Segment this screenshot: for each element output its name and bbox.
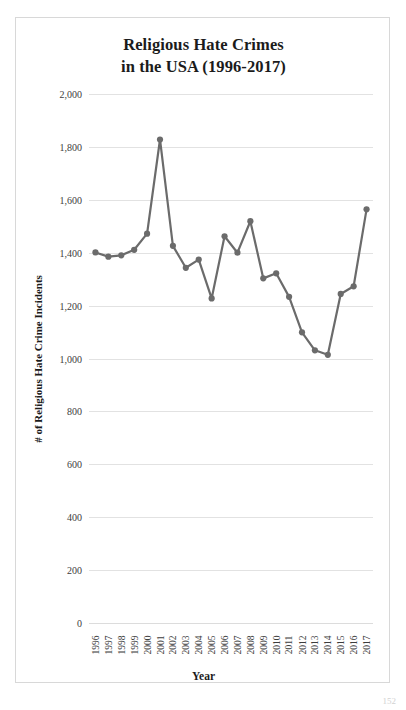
y-tick-label-600: 600 bbox=[67, 459, 82, 470]
x-tick-label-2002: 2002 bbox=[166, 626, 180, 670]
y-tick-label-1800: 1,800 bbox=[60, 141, 83, 152]
x-tick-label-1996: 1996 bbox=[88, 626, 102, 670]
x-tick-text: 2002 bbox=[168, 636, 178, 655]
x-tick-text: 2014 bbox=[323, 636, 333, 655]
plot-area: 02004006008001,0001,2001,4001,6001,8002,… bbox=[89, 94, 373, 623]
x-tick-label-2000: 2000 bbox=[140, 626, 154, 670]
data-point-1999[interactable] bbox=[131, 247, 137, 253]
y-axis-title: # of Religious Hate Crime Incidents bbox=[30, 94, 46, 623]
data-point-1997[interactable] bbox=[105, 254, 111, 260]
y-tick-label-1600: 1,600 bbox=[60, 194, 83, 205]
x-tick-label-2012: 2012 bbox=[295, 626, 309, 670]
data-point-2012[interactable] bbox=[299, 329, 305, 335]
x-tick-label-2009: 2009 bbox=[256, 626, 270, 670]
x-tick-label-2010: 2010 bbox=[269, 626, 283, 670]
x-tick-text: 2012 bbox=[297, 636, 307, 655]
data-point-2006[interactable] bbox=[221, 233, 227, 239]
data-point-2013[interactable] bbox=[312, 347, 318, 353]
x-tick-text: 1997 bbox=[103, 636, 113, 655]
data-point-2016[interactable] bbox=[351, 283, 357, 289]
x-tick-text: 2015 bbox=[336, 636, 346, 655]
data-point-2003[interactable] bbox=[183, 265, 189, 271]
data-point-2000[interactable] bbox=[144, 231, 150, 237]
data-point-2008[interactable] bbox=[247, 218, 253, 224]
chart-title-line-2: in the USA (1996-2017) bbox=[16, 56, 391, 78]
x-tick-labels-group: 1996199719981999200020012002200320042005… bbox=[89, 626, 373, 670]
x-tick-label-2003: 2003 bbox=[179, 626, 193, 670]
y-tick-label-800: 800 bbox=[67, 406, 82, 417]
y-axis-title-label: # of Religious Hate Crime Incidents bbox=[32, 275, 44, 443]
x-tick-text: 2009 bbox=[258, 636, 268, 655]
x-tick-text: 2013 bbox=[310, 636, 320, 655]
chart-container: Religious Hate Crimes in the USA (1996-2… bbox=[15, 17, 390, 683]
x-tick-label-2013: 2013 bbox=[308, 626, 322, 670]
y-tick-label-2000: 2,000 bbox=[60, 89, 83, 100]
y-tick-label-1400: 1,400 bbox=[60, 247, 83, 258]
x-tick-label-2004: 2004 bbox=[192, 626, 206, 670]
x-tick-text: 2006 bbox=[220, 636, 230, 655]
data-point-1998[interactable] bbox=[118, 252, 124, 258]
x-tick-label-2015: 2015 bbox=[334, 626, 348, 670]
data-point-2005[interactable] bbox=[209, 295, 215, 301]
y-tick-label-1200: 1,200 bbox=[60, 300, 83, 311]
data-point-2014[interactable] bbox=[325, 352, 331, 358]
x-tick-text: 1996 bbox=[90, 636, 100, 655]
x-tick-label-2008: 2008 bbox=[243, 626, 257, 670]
series-line-chart bbox=[89, 94, 373, 623]
x-tick-label-2006: 2006 bbox=[218, 626, 232, 670]
x-tick-text: 2016 bbox=[349, 636, 359, 655]
x-tick-label-1997: 1997 bbox=[101, 626, 115, 670]
x-tick-text: 1999 bbox=[129, 636, 139, 655]
data-point-2004[interactable] bbox=[196, 256, 202, 262]
page-number: 152 bbox=[383, 696, 397, 706]
data-point-2007[interactable] bbox=[234, 250, 240, 256]
x-tick-label-2017: 2017 bbox=[360, 626, 374, 670]
x-tick-text: 2008 bbox=[245, 636, 255, 655]
x-tick-label-2016: 2016 bbox=[347, 626, 361, 670]
x-tick-text: 2017 bbox=[362, 636, 372, 655]
x-tick-text: 2005 bbox=[207, 636, 217, 655]
x-axis-title: Year bbox=[16, 670, 391, 682]
x-tick-text: 2000 bbox=[142, 636, 152, 655]
x-tick-label-1998: 1998 bbox=[114, 626, 128, 670]
x-tick-text: 2007 bbox=[232, 636, 242, 655]
y-tick-label-400: 400 bbox=[67, 512, 82, 523]
x-tick-text: 2001 bbox=[155, 636, 165, 655]
chart-title-line-1: Religious Hate Crimes bbox=[16, 34, 391, 56]
x-tick-label-2007: 2007 bbox=[230, 626, 244, 670]
x-tick-text: 1998 bbox=[116, 636, 126, 655]
data-point-2017[interactable] bbox=[363, 206, 369, 212]
x-tick-text: 2011 bbox=[284, 636, 294, 655]
data-point-2010[interactable] bbox=[273, 270, 279, 276]
y-tick-label-0: 0 bbox=[77, 618, 82, 629]
chart-title: Religious Hate Crimes in the USA (1996-2… bbox=[16, 34, 391, 78]
data-point-2015[interactable] bbox=[338, 291, 344, 297]
page-canvas: Religious Hate Crimes in the USA (1996-2… bbox=[0, 0, 406, 710]
data-point-2001[interactable] bbox=[157, 136, 163, 142]
data-point-1996[interactable] bbox=[92, 249, 98, 255]
x-tick-text: 2010 bbox=[271, 636, 281, 655]
data-point-2002[interactable] bbox=[170, 243, 176, 249]
gridline-0 bbox=[89, 623, 373, 624]
x-tick-label-2011: 2011 bbox=[282, 626, 296, 670]
y-tick-label-200: 200 bbox=[67, 565, 82, 576]
x-tick-label-2001: 2001 bbox=[153, 626, 167, 670]
x-tick-label-2014: 2014 bbox=[321, 626, 335, 670]
x-tick-label-1999: 1999 bbox=[127, 626, 141, 670]
data-point-2011[interactable] bbox=[286, 294, 292, 300]
x-tick-text: 2004 bbox=[194, 636, 204, 655]
x-axis-title-label: Year bbox=[192, 670, 215, 682]
series-markers-group bbox=[92, 136, 369, 358]
x-tick-label-2005: 2005 bbox=[205, 626, 219, 670]
y-tick-label-1000: 1,000 bbox=[60, 353, 83, 364]
data-point-2009[interactable] bbox=[260, 275, 266, 281]
series-polyline bbox=[95, 139, 366, 354]
x-tick-text: 2003 bbox=[181, 636, 191, 655]
